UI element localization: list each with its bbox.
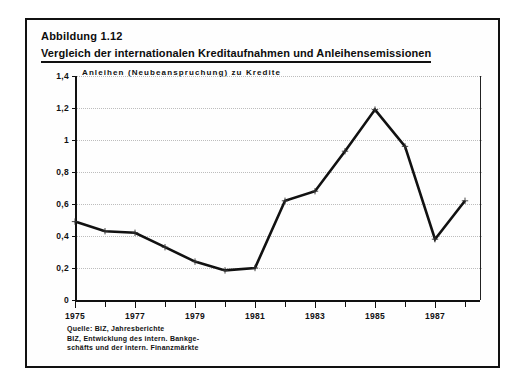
y-axis-label: 0,6 — [56, 199, 69, 209]
x-axis-tick — [375, 302, 376, 308]
y-axis-label: 1,4 — [56, 71, 69, 81]
x-axis-tick — [345, 302, 346, 307]
title-block: Abbildung 1.12 Vergleich der internation… — [41, 30, 487, 63]
y-axis-label: 1 — [64, 135, 69, 145]
figure-number: Abbildung 1.12 — [41, 30, 487, 43]
x-axis-tick — [195, 302, 196, 308]
y-axis-label: 0,4 — [56, 231, 69, 241]
y-axis-label: 0,8 — [56, 167, 69, 177]
y-axis-label: 0 — [64, 295, 69, 305]
series-polyline — [75, 110, 465, 271]
source-line: schäfts und der intern. Finanzmärkte — [67, 343, 199, 353]
x-axis-label: 1979 — [185, 311, 205, 321]
x-axis-label: 1981 — [245, 311, 265, 321]
x-axis-tick — [225, 302, 226, 307]
x-axis-label: 1987 — [425, 311, 445, 321]
source-note: Quelle: BIZ, JahresberichteBIZ, Entwickl… — [67, 324, 199, 353]
x-axis-label: 1985 — [365, 311, 385, 321]
x-axis-tick — [435, 302, 436, 308]
x-axis-tick — [105, 302, 106, 307]
x-axis-tick — [165, 302, 166, 307]
x-axis-tick — [285, 302, 286, 307]
data-point-marker — [102, 228, 108, 234]
data-point-marker — [222, 267, 228, 273]
x-axis: 1975197719791981198319851987 — [75, 300, 480, 302]
data-series-line — [75, 76, 480, 300]
x-axis-tick — [315, 302, 316, 308]
x-axis-tick — [405, 302, 406, 307]
x-axis-tick — [255, 302, 256, 308]
source-line: BIZ, Entwicklung des intern. Bankge- — [67, 334, 199, 344]
plot-right-border — [480, 76, 481, 300]
x-axis-label: 1975 — [65, 311, 85, 321]
page-title: Vergleich der internationalen Kreditaufn… — [41, 46, 431, 63]
x-axis-label: 1977 — [125, 311, 145, 321]
x-axis-tick — [465, 302, 466, 307]
y-axis-label: 0,2 — [56, 263, 69, 273]
x-axis-tick — [75, 302, 76, 308]
x-axis-tick — [135, 302, 136, 308]
x-axis-label: 1983 — [305, 311, 325, 321]
source-line: Quelle: BIZ, Jahresberichte — [67, 324, 199, 334]
y-axis-label: 1,2 — [56, 103, 69, 113]
figure-panel: Abbildung 1.12 Vergleich der internation… — [25, 18, 500, 368]
data-point-marker — [72, 218, 78, 224]
